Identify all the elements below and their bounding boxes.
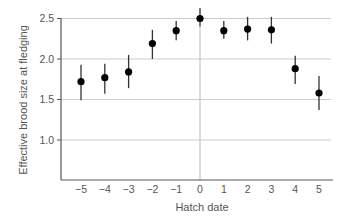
x-tick-label: 1 [221, 183, 227, 195]
x-axis-label: Hatch date [175, 201, 228, 213]
x-tick-label: −1 [170, 183, 182, 195]
data-point [173, 21, 180, 40]
x-tick-label: −4 [99, 183, 111, 195]
point-marker [292, 65, 299, 72]
data-point [196, 8, 203, 27]
data-point [315, 76, 322, 110]
data-point [101, 64, 108, 94]
point-marker [77, 78, 84, 85]
point-marker [220, 27, 227, 34]
chart: 1.01.52.02.5 −5−4−3−2−1012345 Hatch date… [0, 0, 347, 220]
data-point [149, 30, 156, 59]
x-tick-label: −2 [146, 183, 158, 195]
point-marker [173, 27, 180, 34]
x-axis-ticks: −5−4−3−2−1012345 [75, 183, 322, 195]
x-tick-label: −3 [123, 183, 135, 195]
point-marker [125, 68, 132, 75]
y-tick-label: 1.0 [39, 134, 54, 146]
x-tick-label: 0 [197, 183, 203, 195]
point-marker [196, 15, 203, 22]
point-marker [315, 89, 322, 96]
y-axis-ticks: 1.01.52.02.5 [39, 12, 61, 146]
data-point [244, 17, 251, 40]
point-marker [244, 25, 251, 32]
y-tick-label: 2.0 [39, 53, 54, 65]
y-tick-label: 1.5 [39, 93, 54, 105]
x-tick-label: 3 [268, 183, 274, 195]
data-point [77, 65, 84, 101]
y-tick-label: 2.5 [39, 12, 54, 24]
y-axis-label: Effective brood size at fledging [17, 25, 29, 175]
data-point [268, 17, 275, 44]
point-marker [101, 74, 108, 81]
data-point [220, 21, 227, 39]
point-marker [149, 40, 156, 47]
x-tick-label: 5 [316, 183, 322, 195]
gridlines [61, 19, 331, 141]
point-marker [268, 26, 275, 33]
data-point [125, 55, 132, 88]
data-point [292, 56, 299, 84]
x-tick-label: −5 [75, 183, 87, 195]
x-tick-label: 4 [292, 183, 298, 195]
x-tick-label: 2 [245, 183, 251, 195]
